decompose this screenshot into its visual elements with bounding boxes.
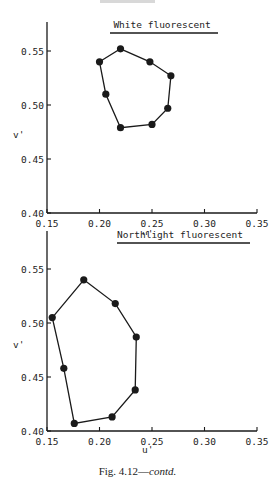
data-point — [148, 121, 155, 128]
chart-northlight-fluorescent: 0.150.200.250.300.350.400.450.500.55v'u'… — [0, 218, 275, 458]
y-tick-label: 0.40 — [21, 426, 44, 437]
axes: 0.150.200.250.300.350.400.450.500.55v'u'… — [13, 229, 268, 455]
chart-title: White fluorescent — [113, 19, 210, 30]
data-point — [102, 91, 109, 98]
chart-title: Northlight fluorescent — [117, 229, 243, 240]
x-tick-label: 0.15 — [36, 436, 59, 447]
x-tick-label: 0.35 — [246, 436, 269, 447]
data-point — [60, 365, 67, 372]
data-point — [71, 420, 78, 427]
y-tick-label: 0.55 — [21, 46, 44, 57]
figure-caption: Fig. 4.12—contd. — [0, 465, 275, 477]
x-tick-label: 0.20 — [88, 436, 111, 447]
data-point — [133, 333, 140, 340]
y-tick-label: 0.55 — [21, 264, 44, 275]
data-point — [112, 300, 119, 307]
x-axis-title: u' — [142, 444, 153, 455]
y-axis-title: v' — [13, 339, 24, 350]
y-tick-label: 0.45 — [21, 154, 44, 165]
data-point — [96, 58, 103, 65]
data-point — [117, 124, 124, 131]
y-tick-label: 0.50 — [21, 100, 44, 111]
gamut-polygon — [100, 49, 171, 128]
y-tick-label: 0.50 — [21, 318, 44, 329]
x-tick-label: 0.30 — [193, 436, 216, 447]
data-point — [132, 386, 139, 393]
y-tick-label: 0.40 — [21, 208, 44, 219]
y-tick-label: 0.45 — [21, 372, 44, 383]
caption-label: Fig. 4.12— — [99, 465, 149, 477]
gamut-polygon — [52, 280, 136, 424]
caption-contd: contd. — [149, 465, 176, 477]
data-point — [49, 314, 56, 321]
data-point — [80, 276, 87, 283]
axes: 0.150.200.250.300.350.400.450.500.55v'u'… — [13, 19, 268, 235]
y-axis-title: v' — [13, 129, 24, 140]
data-point — [109, 413, 116, 420]
chart-white-fluorescent: 0.150.200.250.300.350.400.450.500.55v'u'… — [0, 0, 275, 235]
data-point — [117, 45, 124, 52]
data-point — [164, 105, 171, 112]
data-point — [167, 72, 174, 79]
data-point — [146, 58, 153, 65]
